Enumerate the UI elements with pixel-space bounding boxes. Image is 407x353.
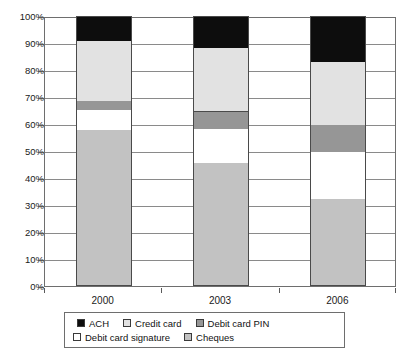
bar-segment-2000-credit-card[interactable] [76,40,132,100]
legend-row-2: Debit card signatureCheques [70,330,339,344]
bar-segment-2006-debit-card-pin[interactable] [310,124,366,152]
x-tick-mark-end [395,288,396,293]
bar-segment-2000-cheques[interactable] [76,129,132,286]
bar-segment-2006-cheques[interactable] [310,198,366,286]
legend-swatch-icon-cheques [184,333,192,341]
y-axis: 0%10%20%30%40%50%60%70%80%90%100% [0,17,44,288]
legend-swatch-icon-ach [77,319,85,327]
legend-swatch-icon-debit-card-signature [73,333,81,341]
legend-label: ACH [89,318,109,329]
legend-item-ach[interactable]: ACH [77,318,109,329]
x-tick-mark-0 [44,288,45,293]
bar-segment-2006-ach[interactable] [310,16,366,62]
bar-group-2000[interactable] [76,16,132,286]
legend-item-cheques[interactable]: Cheques [184,332,234,343]
x-tick-mark-2 [279,288,280,293]
x-axis: 200020032006 [44,288,396,310]
legend-item-debit-card-pin[interactable]: Debit card PIN [196,318,270,329]
bar-segment-2006-debit-card-signature[interactable] [310,151,366,199]
bar-segment-2000-debit-card-pin[interactable] [76,100,132,110]
bar-segment-2006-credit-card[interactable] [310,61,366,125]
legend-label: Debit card PIN [208,318,270,329]
chart-legend: ACHCredit cardDebit card PIN Debit card … [64,312,345,348]
legend-swatch-icon-credit-card [123,319,131,327]
legend-item-credit-card[interactable]: Credit card [123,318,181,329]
bar-segment-2003-debit-card-pin[interactable] [193,111,249,130]
x-tick-label-2006: 2006 [307,295,367,307]
legend-row-1: ACHCredit cardDebit card PIN [70,316,339,330]
legend-swatch-icon-debit-card-pin [196,319,204,327]
stacked-bar-chart: 0%10%20%30%40%50%60%70%80%90%100% 200020… [0,0,407,353]
bar-segment-2003-ach[interactable] [193,16,249,48]
bar-segment-2000-debit-card-signature[interactable] [76,109,132,130]
bar-segment-2003-cheques[interactable] [193,162,249,286]
x-tick-mark-1 [161,288,162,293]
legend-item-debit-card-signature[interactable]: Debit card signature [73,332,170,343]
bar-group-2003[interactable] [193,16,249,286]
bar-group-2006[interactable] [310,16,366,286]
legend-label: Cheques [196,332,234,343]
x-tick-label-2003: 2003 [190,295,250,307]
bar-segment-2003-credit-card[interactable] [193,47,249,111]
x-tick-label-2000: 2000 [73,295,133,307]
bar-segment-2000-ach[interactable] [76,16,132,41]
plot-area [44,17,396,287]
legend-label: Debit card signature [85,332,170,343]
bar-segment-2003-debit-card-signature[interactable] [193,128,249,163]
legend-label: Credit card [135,318,181,329]
